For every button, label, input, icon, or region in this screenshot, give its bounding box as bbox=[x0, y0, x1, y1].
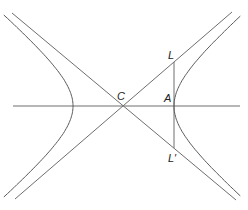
hyperbola-diagram: C A L L′ bbox=[0, 0, 248, 210]
label-latus-top: L bbox=[168, 50, 174, 61]
label-vertex: A bbox=[164, 93, 171, 104]
diagram-svg bbox=[0, 0, 248, 210]
label-center: C bbox=[117, 91, 125, 102]
label-latus-bottom: L′ bbox=[168, 153, 176, 164]
